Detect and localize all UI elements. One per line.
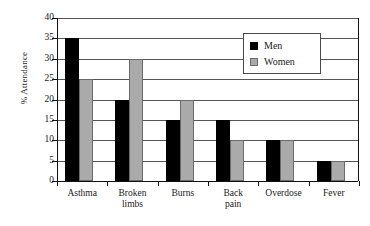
legend-label-women: Women xyxy=(264,57,295,67)
x-cat-label-line: Burns xyxy=(158,188,208,199)
x-tick-mark xyxy=(57,181,58,186)
bar-men-overdose xyxy=(266,140,280,181)
y-tick-label: 30 xyxy=(14,54,54,63)
legend: Men Women xyxy=(243,33,321,74)
bar-men-burns xyxy=(166,120,180,181)
bar-women-broken-limbs xyxy=(129,59,143,181)
x-cat-label-fever: Fever xyxy=(309,188,359,199)
y-tick-label: 0 xyxy=(14,176,54,185)
y-tick-label: 5 xyxy=(14,156,54,165)
bar-group xyxy=(57,18,107,181)
x-cat-label-line: Broken xyxy=(107,188,157,199)
bar-women-fever xyxy=(331,161,345,181)
bar-men-back-pain xyxy=(216,120,230,181)
x-cat-label-line: limbs xyxy=(107,199,157,210)
legend-item-women: Women xyxy=(250,54,320,70)
x-cat-label-line: Overdose xyxy=(258,188,308,199)
x-cat-label-burns: Burns xyxy=(158,188,208,199)
x-tick-mark xyxy=(309,181,310,186)
y-tick-label: 20 xyxy=(14,95,54,104)
y-tick-label: 40 xyxy=(14,13,54,22)
x-tick-mark xyxy=(359,181,360,186)
legend-label-men: Men xyxy=(264,41,282,51)
x-cat-label-back-pain: Backpain xyxy=(208,188,258,210)
x-tick-mark xyxy=(208,181,209,186)
x-cat-label-broken-limbs: Brokenlimbs xyxy=(107,188,157,210)
bar-group xyxy=(158,18,208,181)
bar-women-overdose xyxy=(280,140,294,181)
bar-women-asthma xyxy=(79,79,93,181)
y-tick-label: 25 xyxy=(14,74,54,83)
bar-men-fever xyxy=(317,161,331,181)
x-cat-label-line: Back xyxy=(208,188,258,199)
legend-item-men: Men xyxy=(250,38,320,54)
x-cat-label-line: pain xyxy=(208,199,258,210)
bar-women-burns xyxy=(180,100,194,182)
x-tick-mark xyxy=(258,181,259,186)
bar-chart: % Attendance 4035302520151050 AsthmaBrok… xyxy=(0,0,370,226)
y-tick-label: 10 xyxy=(14,135,54,144)
y-tick-label: 35 xyxy=(14,33,54,42)
legend-swatch-men-icon xyxy=(250,42,258,50)
bar-men-broken-limbs xyxy=(115,100,129,182)
bar-women-back-pain xyxy=(230,140,244,181)
x-cat-label-asthma: Asthma xyxy=(57,188,107,199)
y-tick-label: 15 xyxy=(14,115,54,124)
x-cat-label-overdose: Overdose xyxy=(258,188,308,199)
x-tick-mark xyxy=(107,181,108,186)
x-cat-label-line: Fever xyxy=(309,188,359,199)
bar-men-asthma xyxy=(65,38,79,181)
legend-swatch-women-icon xyxy=(250,58,258,66)
x-tick-mark xyxy=(158,181,159,186)
x-cat-label-line: Asthma xyxy=(57,188,107,199)
bar-group xyxy=(107,18,157,181)
